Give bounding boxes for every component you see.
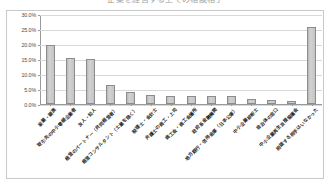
gridline	[40, 105, 322, 106]
y-axis-tick-label: 30.0%	[2, 12, 36, 18]
x-axis-tick	[131, 104, 132, 106]
bar[interactable]	[227, 96, 236, 104]
x-axis-tick	[70, 104, 71, 106]
bar-slot	[221, 14, 241, 104]
bar-slot	[181, 14, 201, 104]
bar[interactable]	[307, 27, 316, 104]
bar[interactable]	[126, 92, 135, 104]
x-axis-category-label: 取引先の中小零細企業者	[37, 107, 78, 148]
bar[interactable]	[207, 96, 216, 104]
bar-slot	[100, 14, 120, 104]
x-axis-tick	[211, 104, 212, 106]
bar[interactable]	[86, 59, 95, 104]
bar[interactable]	[66, 58, 75, 104]
x-axis-tick	[191, 104, 192, 106]
bar-slot	[40, 14, 60, 104]
x-axis-tick	[231, 104, 232, 106]
bar[interactable]	[166, 96, 175, 104]
bar-series	[40, 14, 322, 104]
x-axis-tick	[251, 104, 252, 106]
x-axis-category-label: 友人・知人	[77, 107, 98, 128]
chart-title: 企業を経営する上での相談相手	[0, 0, 331, 4]
y-axis-tick-label: 15.0%	[2, 57, 36, 63]
y-axis-tick	[38, 105, 40, 106]
y-axis-tick-label: 0.0%	[2, 102, 36, 108]
x-axis-tick	[272, 104, 273, 106]
x-axis-category-labels: 家業・親族取引先の中小零細企業者友人・知人経営のパートナー（共同経営者）経営コン…	[40, 107, 322, 191]
bar-slot	[241, 14, 261, 104]
x-axis-category-label: 家業・親族	[37, 107, 58, 128]
bar-slot	[161, 14, 181, 104]
y-axis-tick-label: 5.0%	[2, 87, 36, 93]
bar-slot	[121, 14, 141, 104]
bar-slot	[60, 14, 80, 104]
bar-slot	[262, 14, 282, 104]
y-axis-tick-label: 20.0%	[2, 42, 36, 48]
bar-slot	[302, 14, 322, 104]
bar-chart: 企業を経営する上での相談相手 30.0%25.0%20.0%15.0%10.0%…	[0, 0, 331, 191]
bar[interactable]	[106, 85, 115, 104]
x-axis-tick	[50, 104, 51, 106]
x-axis-tick	[292, 104, 293, 106]
bar-slot	[201, 14, 221, 104]
y-axis-tick-label: 25.0%	[2, 27, 36, 33]
x-axis-tick	[110, 104, 111, 106]
bar-slot	[80, 14, 100, 104]
bar[interactable]	[146, 95, 155, 104]
bar[interactable]	[46, 45, 55, 104]
x-axis-tick	[90, 104, 91, 106]
bar-slot	[141, 14, 161, 104]
x-axis-tick	[312, 104, 313, 106]
bar[interactable]	[187, 96, 196, 104]
x-axis-category-label: 相談する相手はいなかった	[275, 107, 319, 151]
bar-slot	[282, 14, 302, 104]
plot-area: 30.0%25.0%20.0%15.0%10.0%5.0%0.0%	[40, 15, 322, 105]
y-axis-tick-label: 10.0%	[2, 72, 36, 78]
x-axis-tick	[171, 104, 172, 106]
x-axis-tick	[151, 104, 152, 106]
x-axis-category-label: 中小企業再生支援協議会	[258, 107, 299, 148]
